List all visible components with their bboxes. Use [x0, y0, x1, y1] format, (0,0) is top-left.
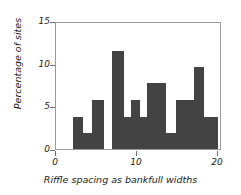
histogram-bar [124, 117, 131, 149]
histogram-bar [112, 51, 123, 149]
histogram-bar [186, 100, 195, 149]
histogram-bar [131, 100, 140, 149]
y-tick-15: 15 [26, 17, 50, 26]
y-tick-label-10: 10 [30, 60, 50, 69]
y-tick-5: 5 [26, 102, 50, 111]
x-tick-mark-0 [55, 151, 56, 156]
y-axis-title: Percentage of sites [12, 4, 23, 124]
y-tick-label-15: 15 [30, 17, 50, 26]
x-tick-20: 20 [205, 157, 229, 168]
histogram-bar [194, 67, 204, 149]
histogram-bar [166, 133, 176, 149]
histogram-bar [157, 83, 166, 149]
x-tick-label-10: 10 [124, 157, 148, 168]
histogram-bar [92, 100, 104, 149]
x-tick-mark-10 [136, 151, 137, 156]
histogram-bar [147, 83, 158, 149]
histogram-bar [140, 117, 147, 149]
x-tick-mark-20 [217, 151, 218, 156]
plot-area [55, 22, 221, 150]
x-tick-0: 0 [43, 157, 67, 168]
histogram-bars [56, 23, 220, 149]
y-tick-0: 0 [26, 145, 50, 154]
x-axis-title: Riffle spacing as bankfull widths [0, 174, 241, 185]
y-tick-label-5: 5 [30, 102, 50, 111]
y-tick-label-0: 0 [30, 145, 50, 154]
histogram-figure: 0 5 10 15 0 10 20 Percentage o [0, 0, 241, 195]
histogram-bar [73, 117, 84, 149]
x-tick-label-0: 0 [43, 157, 67, 168]
histogram-bar [176, 100, 186, 149]
y-tick-10: 10 [26, 60, 50, 69]
histogram-bar [83, 133, 92, 149]
x-tick-10: 10 [124, 157, 148, 168]
histogram-bar [204, 117, 218, 149]
x-tick-label-20: 20 [205, 157, 229, 168]
